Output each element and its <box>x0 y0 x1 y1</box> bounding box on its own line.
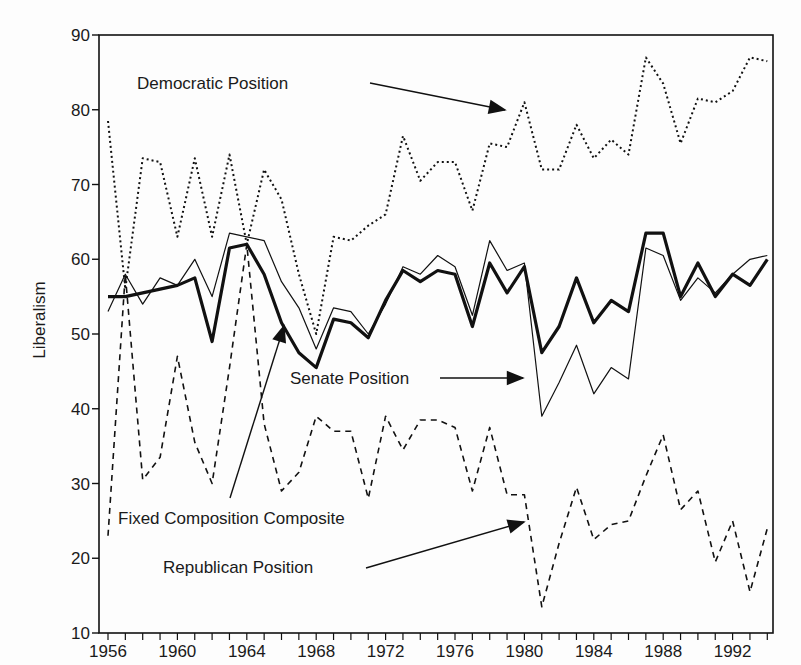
line-chart: 1020304050607080901956196019641968197219… <box>0 0 801 665</box>
series-republican-position <box>108 244 767 607</box>
x-tick-label: 1988 <box>644 642 682 661</box>
x-tick-label: 1992 <box>714 642 752 661</box>
y-tick-label: 40 <box>71 400 90 419</box>
x-tick-label: 1980 <box>505 642 543 661</box>
y-tick-label: 80 <box>71 101 90 120</box>
annotation-label: Senate Position <box>290 369 409 388</box>
y-tick-label: 30 <box>71 475 90 494</box>
series-fixed-composition-composite <box>108 233 767 368</box>
x-tick-label: 1984 <box>575 642 613 661</box>
y-tick-label: 60 <box>71 250 90 269</box>
x-tick-label: 1972 <box>367 642 405 661</box>
annotation-arrow <box>370 83 505 110</box>
y-tick-label: 50 <box>71 325 90 344</box>
plot-frame <box>99 35 773 633</box>
annotations: Democratic PositionSenate PositionFixed … <box>118 74 524 577</box>
x-tick-label: 1976 <box>436 642 474 661</box>
y-tick-label: 10 <box>71 624 90 643</box>
x-tick-label: 1956 <box>89 642 127 661</box>
y-tick-label: 70 <box>71 176 90 195</box>
x-tick-label: 1968 <box>297 642 335 661</box>
x-tick-label: 1964 <box>228 642 266 661</box>
series-democratic-position <box>108 57 767 334</box>
annotation-label: Republican Position <box>163 558 313 577</box>
y-tick-label: 90 <box>71 26 90 45</box>
annotation-label: Fixed Composition Composite <box>118 509 345 528</box>
x-tick-label: 1960 <box>158 642 196 661</box>
annotation-label: Democratic Position <box>137 74 288 93</box>
y-tick-label: 20 <box>71 549 90 568</box>
annotation-arrow <box>366 522 524 568</box>
y-axis-label: Liberalism <box>30 281 49 358</box>
